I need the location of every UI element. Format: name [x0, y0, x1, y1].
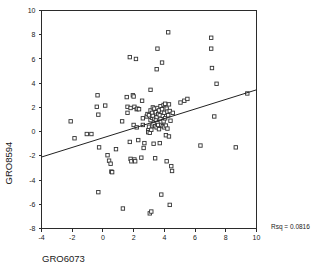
- scatter-point: [96, 94, 99, 97]
- scatter-point: [167, 31, 170, 34]
- y-tick-label: 8: [32, 31, 36, 38]
- y-axis-title: GRO8594: [3, 142, 14, 185]
- scatter-point: [73, 137, 76, 140]
- scatter-point: [141, 117, 144, 120]
- scatter-point: [155, 68, 158, 71]
- scatter-point: [90, 132, 93, 135]
- chart-canvas: -8-6-4-20246810 -4-20246810 GRO8594 GRO6…: [0, 0, 333, 280]
- y-tick-label: -2: [29, 152, 35, 159]
- x-tick-label: 8: [224, 234, 228, 241]
- scatter-point: [128, 55, 131, 58]
- scatter-point: [133, 160, 136, 163]
- x-tick-label: -2: [69, 234, 75, 241]
- rsq-annotation: Rsq = 0.0816: [271, 223, 310, 231]
- scatter-point: [128, 140, 131, 143]
- scatter-point: [168, 203, 171, 206]
- scatter-point: [140, 99, 143, 102]
- scatter-point: [121, 207, 124, 210]
- x-tick-label: 6: [193, 234, 197, 241]
- scatter-point: [166, 127, 169, 130]
- scatter-point: [163, 102, 166, 105]
- scatter-point: [157, 127, 160, 130]
- scatter-point: [129, 106, 132, 109]
- scatter-point: [137, 108, 140, 111]
- scatter-point: [142, 146, 145, 149]
- scatter-point: [170, 164, 173, 167]
- scatter-point: [169, 119, 172, 122]
- scatter-point: [95, 105, 98, 108]
- scatter-point: [104, 104, 107, 107]
- y-tick-label: -8: [29, 225, 35, 232]
- x-tick-label: 10: [253, 234, 261, 241]
- y-tick-label: 2: [32, 104, 36, 111]
- y-tick-label: -6: [29, 201, 35, 208]
- scatter-point: [120, 120, 123, 123]
- scatter-point: [152, 142, 155, 145]
- scatter-point: [167, 135, 170, 138]
- scatter-point: [167, 114, 170, 117]
- x-tick-label: -4: [38, 234, 44, 241]
- scatter-point: [110, 170, 113, 173]
- scatter-point: [210, 47, 213, 50]
- scatter-point: [210, 66, 213, 69]
- scatter-point: [114, 147, 117, 150]
- scatter-point: [134, 57, 137, 60]
- x-tick-label: 0: [101, 234, 105, 241]
- y-tick-label: 6: [32, 56, 36, 63]
- scatter-point: [199, 144, 202, 147]
- scatter-point: [97, 190, 100, 193]
- scatter-point: [160, 193, 163, 196]
- scatter-point: [150, 210, 153, 213]
- y-tick-label: 10: [28, 7, 36, 14]
- x-axis-title: GRO6073: [42, 253, 85, 264]
- scatter-point: [210, 36, 213, 39]
- scatter-point: [150, 128, 153, 131]
- scatter-point: [109, 162, 112, 165]
- scatter-point: [97, 113, 100, 116]
- scatter-point: [171, 111, 174, 114]
- scatter-point: [213, 115, 216, 118]
- x-tick-label: 2: [132, 234, 136, 241]
- scatter-point: [186, 97, 189, 100]
- scatter-point: [137, 138, 140, 141]
- scatter-point: [97, 146, 100, 149]
- scatter-point: [160, 61, 163, 64]
- scatter-point: [140, 156, 143, 159]
- y-tick-label: -4: [29, 177, 35, 184]
- scatter-point: [170, 169, 173, 172]
- scatter-point: [143, 141, 146, 144]
- scatter-point: [153, 157, 156, 160]
- x-tick-label: 4: [162, 234, 166, 241]
- scatter-point: [160, 108, 163, 111]
- scatter-point: [132, 95, 135, 98]
- scatter-point: [106, 154, 109, 157]
- scatter-point: [215, 82, 218, 85]
- y-tick-label: 4: [32, 80, 36, 87]
- figure-background: [0, 0, 333, 280]
- y-tick-label: 0: [32, 128, 36, 135]
- scatter-point: [165, 160, 168, 163]
- scatter-point: [156, 47, 159, 50]
- scatter-point: [158, 141, 161, 144]
- scatter-point: [85, 132, 88, 135]
- scatter-point: [149, 88, 152, 91]
- scatter-point: [125, 95, 128, 98]
- scatter-point: [69, 120, 72, 123]
- scatter-point: [234, 146, 237, 149]
- scatter-point: [126, 111, 129, 114]
- scatter-point: [179, 101, 182, 104]
- scatter-plot-figure: -8-6-4-20246810 -4-20246810 GRO8594 GRO6…: [0, 0, 333, 280]
- scatter-point: [167, 103, 170, 106]
